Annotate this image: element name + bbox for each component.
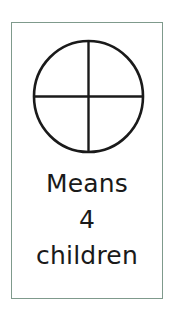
key-caption: Means 4 children [12,166,162,274]
pictogram-key: Means 4 children [11,22,163,299]
caption-line-children: children [12,238,162,274]
caption-line-count: 4 [12,202,162,238]
circle-quartered-icon [32,39,145,154]
caption-line-means: Means [12,166,162,202]
